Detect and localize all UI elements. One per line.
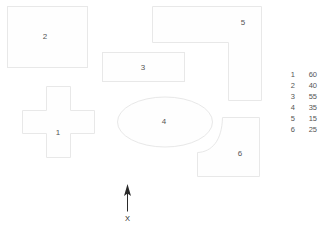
legend-value: 40 [295,80,317,91]
legend-key: 5 [283,113,295,124]
legend-value: 55 [295,91,317,102]
legend-key: 6 [283,124,295,135]
legend-value: 35 [295,102,317,113]
legend-key: 4 [283,102,295,113]
zone-shape-1[interactable] [23,87,95,158]
legend-row: 1 60 [283,69,323,80]
legend-value: 60 [295,69,317,80]
zone-label-3: 3 [141,63,146,72]
zone-label-2: 2 [43,32,48,41]
floor-plan-svg: 2 5 3 1 6 4 X [0,0,326,229]
legend-row: 4 35 [283,102,323,113]
zone-label-4: 4 [162,117,167,126]
orientation-axis-label: X [125,214,130,223]
diagram-canvas: 2 5 3 1 6 4 X 1 60 2 40 3 55 [0,0,326,229]
legend-row: 5 15 [283,113,323,124]
zone-label-5: 5 [241,18,246,27]
zone-label-6: 6 [238,149,243,158]
legend: 1 60 2 40 3 55 4 35 5 15 6 25 [283,69,323,135]
legend-row: 2 40 [283,80,323,91]
legend-value: 15 [295,113,317,124]
legend-key: 2 [283,80,295,91]
legend-key: 1 [283,69,295,80]
legend-key: 3 [283,91,295,102]
legend-row: 6 25 [283,124,323,135]
zone-shape-2[interactable] [8,7,88,68]
legend-value: 25 [295,124,317,135]
legend-row: 3 55 [283,91,323,102]
zone-label-1: 1 [56,128,61,137]
